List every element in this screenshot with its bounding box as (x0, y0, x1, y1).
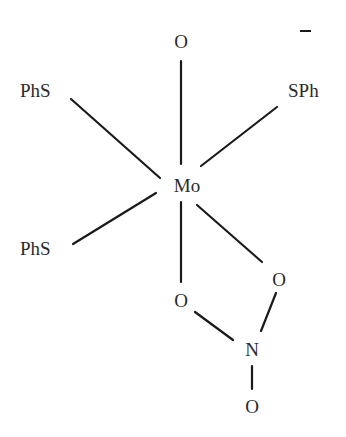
bond-o-lower-right-n (261, 293, 276, 331)
atom-mo: Mo (174, 175, 200, 196)
atom-o-lower-right: O (272, 269, 286, 290)
atom-phs-lower-left: PhS (20, 238, 51, 259)
atom-o-top: O (174, 31, 188, 52)
atom-n: N (245, 339, 259, 360)
bond-mo-o-lower-right (197, 205, 262, 262)
bond-mo-sph-upper-right (201, 107, 277, 166)
bond-o-lower-left-n (195, 312, 233, 340)
atom-o-bottom: O (245, 396, 259, 417)
atom-o-lower-left: O (174, 290, 188, 311)
bond-mo-phs-lower-left (73, 193, 156, 244)
chemical-structure-diagram: O PhS SPh Mo PhS O O N O (0, 0, 346, 437)
atom-sph-upper-right: SPh (288, 80, 319, 101)
bond-mo-phs-upper-left (71, 99, 160, 178)
atom-phs-upper-left: PhS (20, 80, 51, 101)
